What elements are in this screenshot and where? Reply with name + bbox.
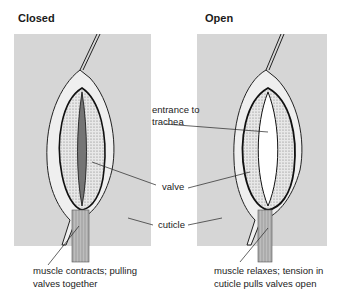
leader-cuticle-right: [188, 218, 222, 225]
open-spiracle: [234, 34, 302, 262]
closed-caption-line2: valves together: [33, 278, 97, 290]
entrance-label-line1: entrance to: [152, 104, 200, 116]
open-muscle: [258, 210, 272, 262]
open-caption-line2: cuticle pulls valves open: [214, 278, 316, 290]
open-caption-line1: muscle relaxes; tension in: [214, 265, 323, 277]
closed-spiracle: [47, 34, 114, 262]
spiracle-diagram: [0, 0, 340, 300]
cuticle-label: cuticle: [158, 219, 185, 231]
valve-label: valve: [162, 181, 184, 193]
entrance-label-line2: trachea: [152, 116, 184, 128]
leader-cuticle-left: [128, 218, 153, 225]
closed-muscle: [72, 210, 89, 262]
closed-caption-line1: muscle contracts; pulling: [33, 265, 137, 277]
closed-cuticle-strand-top: [80, 34, 97, 70]
